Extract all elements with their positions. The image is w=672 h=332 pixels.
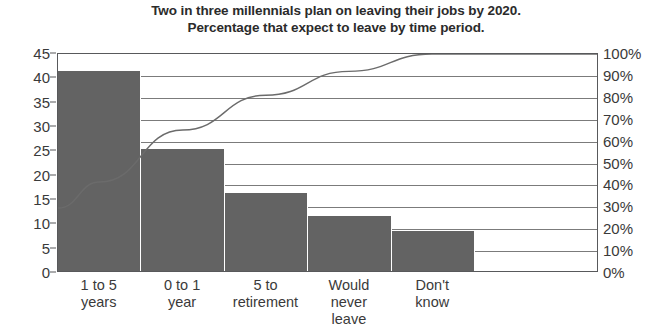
x-axis-label-line: 5 to	[224, 277, 307, 294]
y-left-tick-label-40: 40	[33, 69, 50, 86]
y-left-tick-mark-35	[50, 101, 56, 102]
pareto-chart: Two in three millennials plan on leaving…	[0, 0, 672, 332]
y-right-tick-label-50%: 50%	[603, 154, 633, 171]
y-axis-left: 051015202530354045	[0, 53, 50, 272]
x-axis-label-line: leave	[307, 311, 390, 328]
x-axis-label-line: year	[140, 294, 223, 311]
x-axis-label-line: know	[391, 294, 474, 311]
y-right-tick-label-100%: 100%	[603, 45, 641, 62]
x-axis-label-don-t-know: Don'tknow	[391, 277, 474, 311]
y-left-tick-label-5: 5	[42, 239, 50, 256]
x-axis-categories: 1 to 5years0 to 1year5 toretirementWould…	[57, 277, 598, 332]
y-right-tick-label-70%: 70%	[603, 110, 633, 127]
x-axis-label-line: 1 to 5	[57, 277, 140, 294]
y-right-tick-label-40%: 40%	[603, 176, 633, 193]
y-left-tick-mark-30	[50, 126, 56, 127]
x-axis-label-line: Don't	[391, 277, 474, 294]
x-axis-label-0-to-1-year: 0 to 1year	[140, 277, 223, 311]
y-left-tick-label-0: 0	[42, 264, 50, 281]
y-left-tick-mark-40	[50, 77, 56, 78]
y-left-tick-mark-20	[50, 174, 56, 175]
y-right-tick-label-80%: 80%	[603, 88, 633, 105]
x-axis-label-line: years	[57, 294, 140, 311]
y-left-tick-mark-25	[50, 150, 56, 151]
y-left-tick-label-10: 10	[33, 215, 50, 232]
x-axis-label-line: never	[307, 294, 390, 311]
x-axis-label-line: 0 to 1	[140, 277, 223, 294]
plot-area	[57, 53, 598, 272]
y-left-tick-label-30: 30	[33, 118, 50, 135]
y-left-tick-label-45: 45	[33, 45, 50, 62]
y-axis-right: 0%10%20%30%40%50%60%70%80%90%100%	[603, 53, 672, 272]
cumulative-line-layer	[58, 54, 597, 271]
y-left-tick-mark-5	[50, 247, 56, 248]
y-left-tick-mark-10	[50, 223, 56, 224]
chart-title-line-1: Two in three millennials plan on leaving…	[0, 2, 672, 19]
y-left-tick-mark-15	[50, 199, 56, 200]
x-axis-label-5-to-retirement: 5 toretirement	[224, 277, 307, 311]
x-axis-label-1-to-5-years: 1 to 5years	[57, 277, 140, 311]
y-right-tick-label-90%: 90%	[603, 66, 633, 83]
y-right-tick-label-0%: 0%	[603, 264, 625, 281]
y-left-tick-label-35: 35	[33, 93, 50, 110]
y-right-tick-label-10%: 10%	[603, 242, 633, 259]
x-axis-label-would-never-leave: Wouldneverleave	[307, 277, 390, 328]
cumulative-line	[58, 54, 597, 208]
chart-title: Two in three millennials plan on leaving…	[0, 2, 672, 36]
y-right-tick-label-20%: 20%	[603, 220, 633, 237]
y-left-tick-label-20: 20	[33, 166, 50, 183]
y-left-tick-mark-0	[50, 272, 56, 273]
x-axis-label-line: Would	[307, 277, 390, 294]
y-left-tick-mark-45	[50, 53, 56, 54]
y-right-tick-label-30%: 30%	[603, 198, 633, 215]
y-left-tick-label-15: 15	[33, 191, 50, 208]
y-left-tick-label-25: 25	[33, 142, 50, 159]
y-right-tick-label-60%: 60%	[603, 132, 633, 149]
x-axis-label-line: retirement	[224, 294, 307, 311]
chart-title-line-2: Percentage that expect to leave by time …	[0, 19, 672, 36]
